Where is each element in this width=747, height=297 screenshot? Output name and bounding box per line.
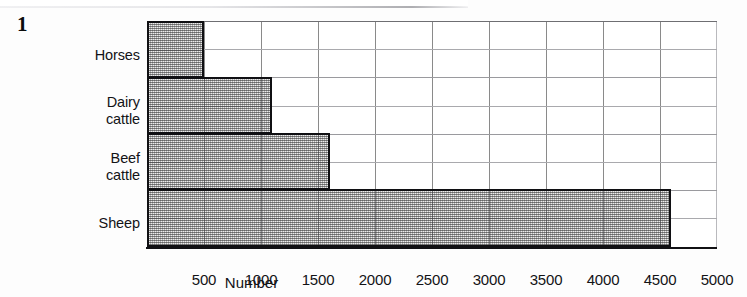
bar-horses[interactable] bbox=[147, 21, 204, 78]
category-label-line1: Sheep bbox=[10, 215, 140, 232]
category-label-dairy-cattle: Dairy cattle bbox=[10, 94, 140, 128]
gridline-horizontal-mid-1 bbox=[147, 49, 717, 50]
plot-top-edge bbox=[147, 21, 717, 22]
bar-chart-plot-area: 500 1000 1500 2000 2500 3000 3500 4000 4… bbox=[147, 21, 717, 247]
category-label-line1: Beef bbox=[10, 150, 140, 167]
category-label-line1: Dairy bbox=[10, 94, 140, 111]
bar-midline bbox=[149, 218, 669, 219]
figure-number: 1 bbox=[17, 14, 28, 35]
bar-beef-cattle[interactable] bbox=[147, 133, 330, 190]
bar-dairy-cattle[interactable] bbox=[147, 77, 272, 134]
x-axis-baseline bbox=[146, 247, 717, 249]
figure-root: 1 Horses Dairy cattle Beef cattle Sheep bbox=[0, 0, 747, 297]
bar-midline bbox=[149, 50, 202, 51]
x-axis-title: Number bbox=[225, 274, 278, 291]
scan-artifact-line bbox=[0, 6, 468, 8]
category-label-sheep: Sheep bbox=[10, 215, 140, 232]
category-label-line2: cattle bbox=[10, 167, 140, 184]
category-label-line1: Horses bbox=[10, 47, 140, 64]
bar-midline bbox=[149, 106, 270, 107]
bar-sheep[interactable] bbox=[147, 189, 671, 247]
category-label-horses: Horses bbox=[10, 47, 140, 64]
bar-midline bbox=[149, 162, 328, 163]
x-axis-title-wrapper: Number bbox=[0, 274, 747, 291]
category-label-beef-cattle: Beef cattle bbox=[10, 150, 140, 184]
category-label-line2: cattle bbox=[10, 111, 140, 128]
